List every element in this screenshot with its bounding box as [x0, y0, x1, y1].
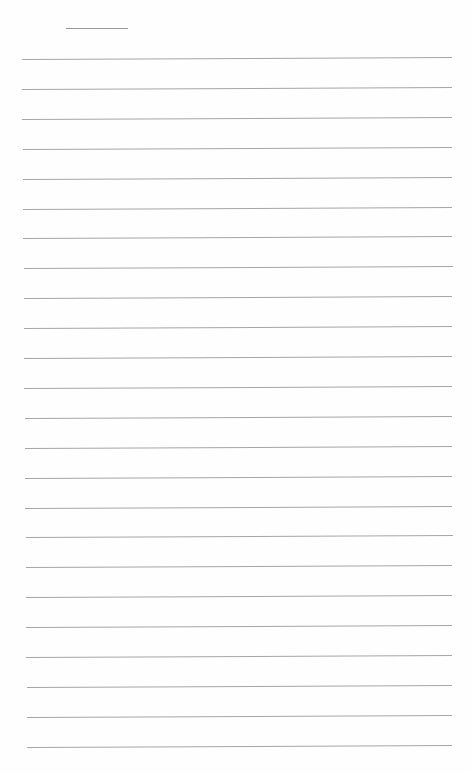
lined-paper-page [0, 0, 471, 773]
ruled-line [23, 207, 452, 210]
ruled-line [23, 236, 452, 239]
ruled-line [22, 117, 452, 120]
ruled-line [25, 476, 452, 479]
ruled-line [25, 446, 452, 449]
ruled-line [23, 147, 452, 150]
ruled-line [22, 57, 452, 60]
ruled-line [23, 177, 452, 180]
ruled-line [27, 715, 452, 718]
ruled-line [26, 655, 452, 658]
ruled-line [25, 416, 452, 419]
ruled-line [24, 326, 452, 329]
ruled-line [26, 595, 452, 598]
ruled-line [27, 745, 452, 748]
ruled-line [22, 87, 452, 90]
header-blank-line [66, 28, 128, 29]
ruled-line [25, 535, 452, 538]
ruled-line [26, 625, 452, 628]
ruled-line [23, 266, 452, 269]
ruled-line [26, 565, 452, 568]
ruled-line [27, 685, 452, 688]
ruled-line [24, 386, 452, 389]
ruled-line [25, 505, 452, 508]
ruled-line [24, 356, 452, 359]
ruled-line [24, 296, 452, 299]
